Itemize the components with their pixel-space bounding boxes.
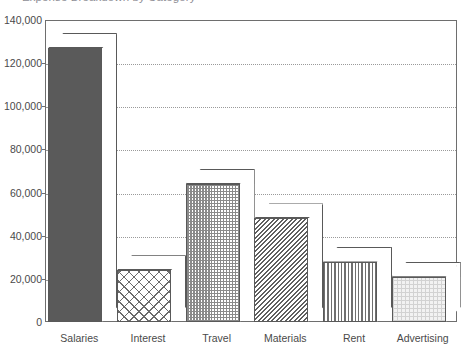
x-axis-label-materials: Materials: [264, 332, 307, 344]
y-axis-tick-label: 40,000: [0, 230, 42, 242]
bar-front-face: [186, 184, 240, 322]
bar-front-face: [254, 218, 308, 322]
bars-layer: [45, 20, 457, 322]
x-axis-label-travel: Travel: [202, 332, 231, 344]
bar-materials[interactable]: [254, 203, 323, 322]
bar-salaries[interactable]: [48, 33, 117, 322]
y-axis-labels: 140,000120,000100,00080,00060,00040,0002…: [0, 20, 42, 322]
bar-side-face: [308, 203, 323, 322]
bar-front-face: [323, 262, 377, 322]
y-axis-tick-label: 20,000: [0, 273, 42, 285]
y-axis-tick-label: 120,000: [0, 57, 42, 69]
chart-title: Expense Breakdown by Category: [22, 0, 442, 3]
y-axis-tick-label: 80,000: [0, 143, 42, 155]
bar-interest[interactable]: [117, 255, 186, 322]
bar-front-face: [117, 270, 171, 322]
x-axis-label-rent: Rent: [343, 332, 365, 344]
bar-side-face: [102, 33, 117, 322]
bar-rent[interactable]: [323, 247, 392, 322]
bar-front-face: [48, 48, 102, 322]
x-axis-label-advertising: Advertising: [397, 332, 449, 344]
y-axis-tick-label: 60,000: [0, 187, 42, 199]
bar-travel[interactable]: [186, 169, 255, 322]
x-axis-labels: SalariesInterestTravelMaterialsRentAdver…: [45, 332, 457, 352]
bar-front-face: [392, 277, 446, 322]
y-axis-tick-label: 0: [0, 316, 42, 328]
bar-chart: Expense Breakdown by Category 140,000120…: [0, 0, 464, 358]
x-axis-label-interest: Interest: [130, 332, 165, 344]
bar-advertising[interactable]: [392, 262, 461, 322]
y-axis-tick-label: 100,000: [0, 100, 42, 112]
x-axis-label-salaries: Salaries: [60, 332, 98, 344]
bar-side-face: [240, 169, 255, 322]
y-axis-tick-label: 140,000: [0, 14, 42, 26]
